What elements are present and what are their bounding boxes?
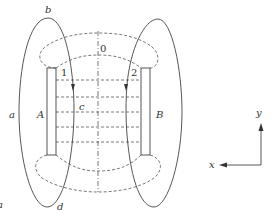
label-1: 1 [61,67,67,78]
y-axis-arrow-icon [259,123,264,131]
bar-A [47,68,56,155]
label-0: 0 [100,43,106,54]
label-b: b [45,4,51,15]
label-x: x [209,159,215,170]
left-loop [19,18,74,207]
label-d: d [57,201,63,212]
arrow-down-left-icon [71,84,75,91]
label-A: A [36,109,44,120]
magnetic-circuit-diagram: b a d c A B 0 1 2 y x a [0,0,271,214]
bar-B [141,68,150,155]
label-corner: a [0,199,3,210]
horizontal-dashed-lines [56,80,141,142]
upper-dashed-loops [40,33,158,68]
label-2: 2 [131,67,137,78]
label-B: B [155,109,163,120]
x-axis-arrow-icon [219,163,227,168]
arrow-down-right-icon [124,84,128,91]
right-loop [126,19,182,207]
label-a: a [9,109,15,120]
coordinate-axes [224,128,261,165]
label-y: y [255,107,262,118]
label-c: c [79,101,85,112]
